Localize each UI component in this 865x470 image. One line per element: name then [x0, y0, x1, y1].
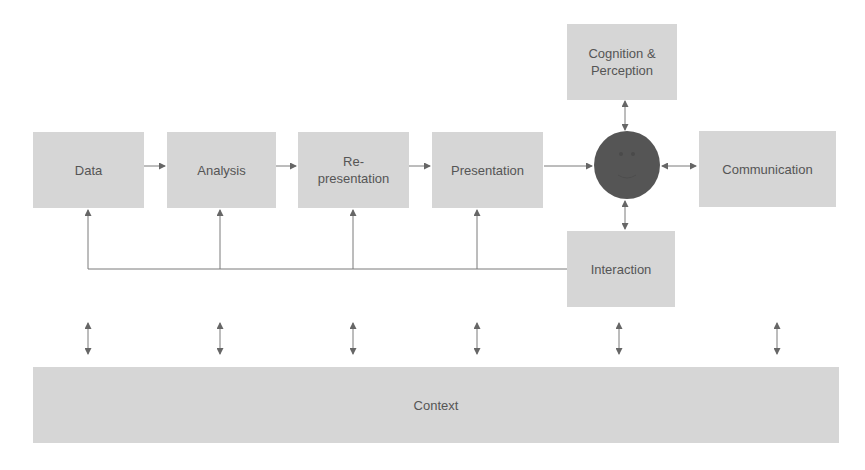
node-cognition-perception: Cognition & Perception	[567, 24, 677, 100]
node-presentation-label: Presentation	[451, 162, 524, 179]
node-interaction-label: Interaction	[591, 261, 652, 278]
node-communication: Communication	[699, 131, 836, 207]
smiley-face-icon	[594, 131, 660, 199]
node-representation: Re- presentation	[298, 132, 409, 208]
user-node	[594, 131, 660, 199]
node-cognition-line1: Cognition &	[588, 45, 655, 62]
node-context-label: Context	[414, 397, 459, 414]
node-interaction: Interaction	[567, 231, 675, 307]
node-analysis-label: Analysis	[197, 162, 245, 179]
node-communication-label: Communication	[722, 161, 812, 178]
node-data: Data	[33, 132, 144, 208]
node-analysis: Analysis	[167, 132, 276, 208]
node-representation-line1: Re-	[343, 153, 364, 170]
node-representation-line2: presentation	[318, 170, 390, 187]
node-cognition-line2: Perception	[591, 62, 653, 79]
node-context: Context	[33, 367, 839, 443]
node-presentation: Presentation	[432, 132, 543, 208]
node-data-label: Data	[75, 162, 102, 179]
